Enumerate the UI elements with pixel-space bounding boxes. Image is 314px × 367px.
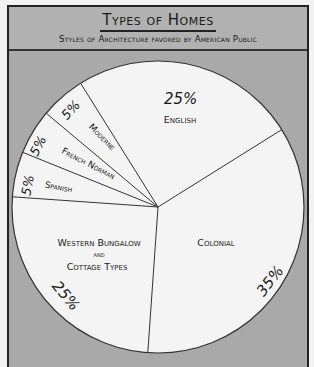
label-english: English bbox=[164, 114, 196, 125]
pct-english: 25% bbox=[164, 90, 197, 108]
label-western-2: and bbox=[93, 250, 104, 259]
pie-slices bbox=[12, 61, 304, 353]
label-colonial: Colonial bbox=[197, 237, 234, 248]
label-western-3: Cottage Types bbox=[67, 261, 128, 272]
label-western-1: Western Bungalow bbox=[57, 237, 140, 248]
